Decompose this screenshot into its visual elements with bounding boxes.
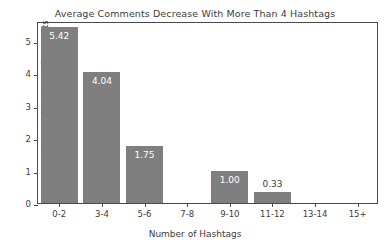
x-tick-mark	[272, 203, 273, 207]
y-tick-label: 2	[14, 135, 31, 144]
bar-slot: 1.00	[211, 23, 248, 203]
bar-slot: 4.04	[83, 23, 120, 203]
x-tick-label: 15+	[328, 209, 388, 219]
bar	[254, 192, 291, 203]
x-tick-mark	[230, 203, 231, 207]
y-tick-mark	[34, 205, 38, 206]
bars-layer: 5.424.041.751.000.33	[38, 23, 377, 203]
bar-slot: 1.75	[126, 23, 163, 203]
y-tick-label: 1	[14, 168, 31, 177]
bar-slot	[339, 23, 376, 203]
bar-slot: 0.33	[254, 23, 291, 203]
y-tick-label: 0	[14, 200, 31, 209]
x-axis-label: Number of Hashtags	[0, 229, 390, 239]
bar-chart-figure: Average Comments Decrease With More Than…	[0, 0, 390, 247]
x-tick-mark	[315, 203, 316, 207]
bar-slot	[169, 23, 206, 203]
x-tick-mark	[358, 203, 359, 207]
chart-title: Average Comments Decrease With More Than…	[0, 8, 390, 19]
bar-slot	[297, 23, 334, 203]
x-tick-mark	[102, 203, 103, 207]
bar-value-label: 4.04	[83, 76, 120, 86]
bar-slot: 5.42	[41, 23, 78, 203]
bar-value-label: 1.00	[211, 175, 248, 185]
x-tick-mark	[187, 203, 188, 207]
bar-value-label: 0.33	[254, 179, 291, 189]
x-tick-mark	[145, 203, 146, 207]
bar	[83, 72, 120, 203]
plot-area: Average Number of Comments 012345 5.424.…	[37, 22, 378, 204]
y-tick-label: 5	[14, 38, 31, 47]
bar	[41, 27, 78, 203]
y-tick-label: 4	[14, 70, 31, 79]
y-tick-label: 3	[14, 103, 31, 112]
bar-value-label: 5.42	[41, 31, 78, 41]
x-tick-mark	[59, 203, 60, 207]
bar-value-label: 1.75	[126, 150, 163, 160]
